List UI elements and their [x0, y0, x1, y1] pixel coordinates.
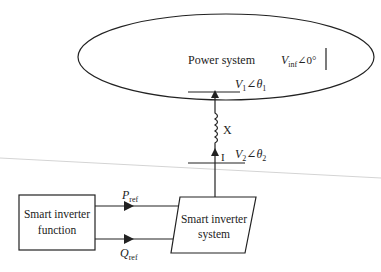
p-ref-label: Pref [121, 188, 139, 204]
inductor-icon [215, 108, 218, 150]
smart-inverter-function-block [19, 195, 95, 250]
svg-text:Pref: Pref [121, 188, 139, 204]
svg-text:Vinf∠0°: Vinf∠0° [281, 53, 316, 69]
system-block-line1: Smart inverter [181, 213, 247, 225]
reactance-label: X [223, 123, 232, 137]
diagram-canvas: Power system Vinf∠0° V1∠θ1 X I V2∠θ2 Sma… [0, 0, 381, 272]
infinite-bus-label: Vinf∠0° [281, 53, 316, 69]
smart-inverter-system-block [171, 197, 256, 253]
power-system-label: Power system [188, 53, 256, 67]
svg-text:Qref: Qref [120, 246, 138, 262]
function-block-line2: function [38, 224, 77, 236]
current-label: I [221, 151, 225, 163]
q-ref-arrow-icon [124, 234, 134, 244]
function-block-line1: Smart inverter [24, 208, 90, 220]
svg-text:V2∠θ2: V2∠θ2 [235, 147, 266, 163]
system-block-line2: system [198, 228, 230, 241]
bus1-label: V1∠θ1 [235, 77, 266, 93]
svg-text:V1∠θ1: V1∠θ1 [235, 77, 266, 93]
faint-line [0, 158, 381, 178]
q-ref-label: Qref [120, 246, 138, 262]
bus2-label: V2∠θ2 [235, 147, 266, 163]
